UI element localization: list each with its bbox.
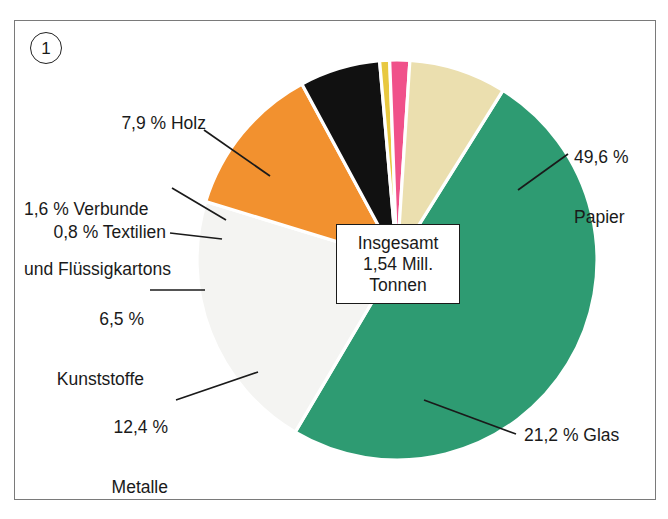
label-glas: 21,2 % Glas — [524, 425, 654, 445]
total-callout-box: Insgesamt 1,54 Mill. Tonnen — [336, 224, 460, 304]
total-callout-line1: Insgesamt — [358, 233, 439, 254]
label-papier-line1: 49,6 % — [574, 147, 664, 167]
total-callout-line2: 1,54 Mill. — [363, 254, 433, 275]
total-callout-line3: Tonnen — [369, 275, 426, 296]
label-verbunde-line1: 1,6 % Verbunde — [24, 199, 184, 219]
label-kunststoffe-line1: 6,5 % — [20, 309, 144, 329]
label-papier-line2: Papier — [574, 207, 664, 227]
label-metalle-line2: Metalle — [44, 477, 168, 497]
label-metalle-line1: 12,4 % — [44, 417, 168, 437]
figure-container: 1 7,9 % Holz 1,6 % Verbunde und Flüssigk… — [0, 0, 668, 519]
label-papier: 49,6 % Papier — [574, 106, 664, 268]
label-textilien: 0,8 % Textilien — [14, 222, 166, 242]
label-holz: 7,9 % Holz — [58, 113, 206, 133]
label-metalle: 12,4 % Metalle — [44, 376, 168, 519]
